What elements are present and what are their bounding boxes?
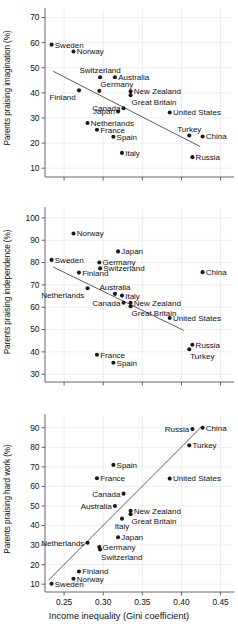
data-point-label: Great Britain [132, 517, 177, 526]
x-tick-label: 0.35 [134, 597, 151, 607]
data-point [190, 155, 194, 159]
data-point [201, 270, 205, 274]
x-tick-label: 0.25 [56, 597, 73, 607]
data-point [86, 121, 90, 125]
data-point [77, 569, 81, 573]
data-point-label: Russia [196, 341, 221, 350]
data-point-label: Japan [121, 533, 143, 542]
y-tick-label: 40 [30, 347, 40, 357]
y-tick-label: 70 [30, 12, 40, 22]
data-point-label: United States [173, 314, 221, 323]
data-point [86, 541, 90, 545]
y-tick-label: 10 [30, 163, 40, 173]
data-point-label: Switzerland [101, 553, 142, 562]
y-axis-label-hard-work: Parents praising hard work (%) [2, 413, 12, 585]
panel-independence: 30405060708090100NorwayJapanSwedenGerman… [0, 200, 238, 407]
panel-imagination: 10203040506070SwedenNorwaySwitzerlandAus… [0, 0, 238, 200]
data-point-label: Australia [81, 502, 113, 511]
y-tick-label: 50 [30, 324, 40, 334]
data-point [190, 427, 194, 431]
data-point [50, 43, 54, 47]
data-point-label: France [100, 474, 125, 483]
data-point-label: Turkey [190, 352, 214, 361]
data-point-label: Canada [92, 490, 121, 499]
data-point-label: Great Britain [132, 98, 177, 107]
data-point [120, 151, 124, 155]
data-point [95, 353, 99, 357]
data-point-label: Turkey [192, 441, 216, 450]
data-point [201, 426, 205, 430]
data-point [98, 75, 102, 79]
data-point-label: Switzerland [79, 66, 120, 75]
y-tick-label: 90 [30, 235, 40, 245]
data-point [71, 49, 75, 53]
data-point [50, 582, 54, 586]
data-point-label: Finland [50, 93, 76, 102]
plot-area-0: 10203040506070SwedenNorwaySwitzerlandAus… [0, 0, 238, 200]
y-tick-label: 80 [30, 442, 40, 452]
x-tick-label: 0.30 [95, 597, 112, 607]
data-point [122, 106, 126, 110]
data-point-label: United States [173, 474, 221, 483]
data-point-label: China [206, 132, 227, 141]
data-point [111, 135, 115, 139]
y-tick-label: 60 [30, 38, 40, 48]
y-tick-label: 60 [30, 302, 40, 312]
y-tick-label: 100 [26, 213, 40, 223]
y-tick-label: 40 [30, 520, 40, 530]
data-point-label: United States [173, 108, 221, 117]
data-point-label: Finland [82, 269, 108, 278]
y-tick-label: 30 [30, 113, 40, 123]
data-point [116, 109, 120, 113]
y-tick-label: 10 [30, 579, 40, 589]
data-point [120, 294, 124, 298]
data-point [50, 258, 54, 262]
data-point [86, 286, 90, 290]
data-point-label: Japan [93, 107, 115, 116]
data-point [113, 504, 117, 508]
data-point [168, 477, 172, 481]
data-point [77, 88, 81, 92]
figure-three-panel-scatter: 10203040506070SwedenNorwaySwitzerlandAus… [0, 0, 238, 626]
data-point-label: Germany [103, 543, 136, 552]
x-axis-label: Income inequality (Gini coefficient) [0, 611, 238, 621]
y-tick-label: 70 [30, 462, 40, 472]
data-point [98, 548, 102, 552]
y-tick-label: 30 [30, 540, 40, 550]
data-point [116, 249, 120, 253]
data-point [77, 271, 81, 275]
data-point [120, 517, 124, 521]
data-point-label: China [206, 268, 227, 277]
data-point-label: Italy [125, 149, 140, 158]
panel-hard-work: 1020304050607080900.250.300.350.400.45Ch… [0, 407, 238, 626]
data-point-label: Russia [165, 425, 190, 434]
data-point-label: Italy [115, 522, 130, 531]
data-point-label: Australia [99, 283, 131, 292]
data-point [129, 301, 133, 305]
data-point-label: Sweden [55, 256, 84, 265]
data-point-label: Spain [117, 359, 137, 368]
y-tick-label: 20 [30, 560, 40, 570]
data-point [129, 304, 133, 308]
data-point-label: Norway [77, 229, 104, 238]
data-point-label: Canada [92, 299, 121, 308]
data-point-label: Turkey [177, 125, 201, 134]
data-point [129, 512, 133, 516]
data-point [122, 301, 126, 305]
data-point [122, 492, 126, 496]
data-point-label: Germany [100, 80, 133, 89]
data-point [95, 128, 99, 132]
data-point-label: Spain [117, 133, 137, 142]
plot-area-2: 1020304050607080900.250.300.350.400.45Ch… [0, 407, 238, 626]
data-point [187, 134, 191, 138]
y-tick-label: 80 [30, 257, 40, 267]
y-tick-label: 70 [30, 280, 40, 290]
y-axis-label-imagination: Parents praising imagination (%) [2, 8, 12, 168]
data-point [116, 535, 120, 539]
data-point [71, 232, 75, 236]
data-point-label: Japan [121, 247, 143, 256]
data-point [168, 110, 172, 114]
data-point [190, 343, 194, 347]
y-tick-label: 90 [30, 423, 40, 433]
data-point-label: Netherlands [41, 539, 84, 548]
